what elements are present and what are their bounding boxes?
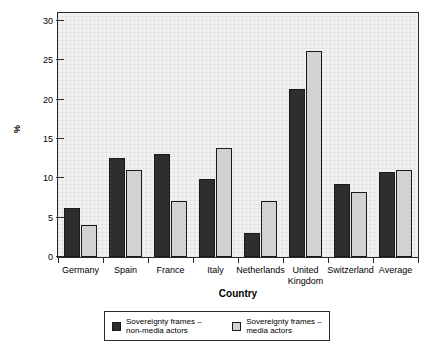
bars-layer bbox=[58, 13, 418, 257]
bar bbox=[261, 201, 277, 257]
bar bbox=[306, 51, 322, 257]
y-axis-title: % bbox=[12, 114, 22, 144]
bar bbox=[334, 184, 350, 257]
x-axis-tick-mark bbox=[103, 258, 104, 263]
bar bbox=[81, 225, 97, 257]
bar bbox=[109, 158, 125, 257]
x-axis-tick-mark bbox=[373, 258, 374, 263]
bar bbox=[171, 201, 187, 257]
bar-group bbox=[103, 13, 148, 257]
x-axis-tick-mark bbox=[238, 258, 239, 263]
bar-group bbox=[148, 13, 193, 257]
legend-item-non-media-actors: Sovereignty frames – non-media actors bbox=[105, 312, 230, 340]
bar bbox=[396, 170, 412, 257]
bar-group bbox=[373, 13, 418, 257]
y-axis-tick-label: 5 bbox=[33, 212, 53, 224]
x-axis-tick-mark bbox=[283, 258, 284, 263]
x-axis-tick-mark bbox=[58, 258, 59, 263]
bar-group bbox=[328, 13, 373, 257]
bar bbox=[244, 233, 260, 257]
x-axis-title: Country bbox=[57, 288, 419, 299]
bar-group bbox=[193, 13, 238, 257]
bar-group bbox=[238, 13, 283, 257]
bar bbox=[199, 179, 215, 257]
x-axis-tick-mark bbox=[148, 258, 149, 263]
legend-label: Sovereignty frames – non-media actors bbox=[126, 317, 202, 336]
y-axis-tick-label: 0 bbox=[33, 251, 53, 263]
bar-chart-figure: % 051015202530 GermanySpainFranceItalyNe… bbox=[0, 0, 426, 348]
y-axis-tick-label: 20 bbox=[33, 94, 53, 106]
bar bbox=[379, 172, 395, 257]
bar bbox=[64, 208, 80, 257]
chart-legend: Sovereignty frames – non-media actors So… bbox=[104, 311, 330, 341]
bar bbox=[216, 148, 232, 257]
legend-swatch-icon bbox=[112, 322, 121, 331]
y-axis-tick-label: 30 bbox=[33, 15, 53, 27]
bar bbox=[126, 170, 142, 257]
bar-group bbox=[58, 13, 103, 257]
bar bbox=[289, 89, 305, 257]
legend-label: Sovereignty frames – media actors bbox=[246, 317, 322, 336]
bar bbox=[154, 154, 170, 257]
bar-group bbox=[283, 13, 328, 257]
x-axis-tick-mark bbox=[418, 258, 419, 263]
bar bbox=[351, 192, 367, 257]
y-axis-tick-label: 25 bbox=[33, 54, 53, 66]
x-axis-tick-label: Average bbox=[364, 265, 426, 276]
y-axis-tick-label: 15 bbox=[33, 133, 53, 145]
legend-swatch-icon bbox=[232, 322, 241, 331]
legend-item-media-actors: Sovereignty frames – media actors bbox=[230, 312, 329, 340]
x-axis-tick-mark bbox=[328, 258, 329, 263]
y-axis-tick-label: 10 bbox=[33, 172, 53, 184]
x-axis-tick-mark bbox=[193, 258, 194, 263]
